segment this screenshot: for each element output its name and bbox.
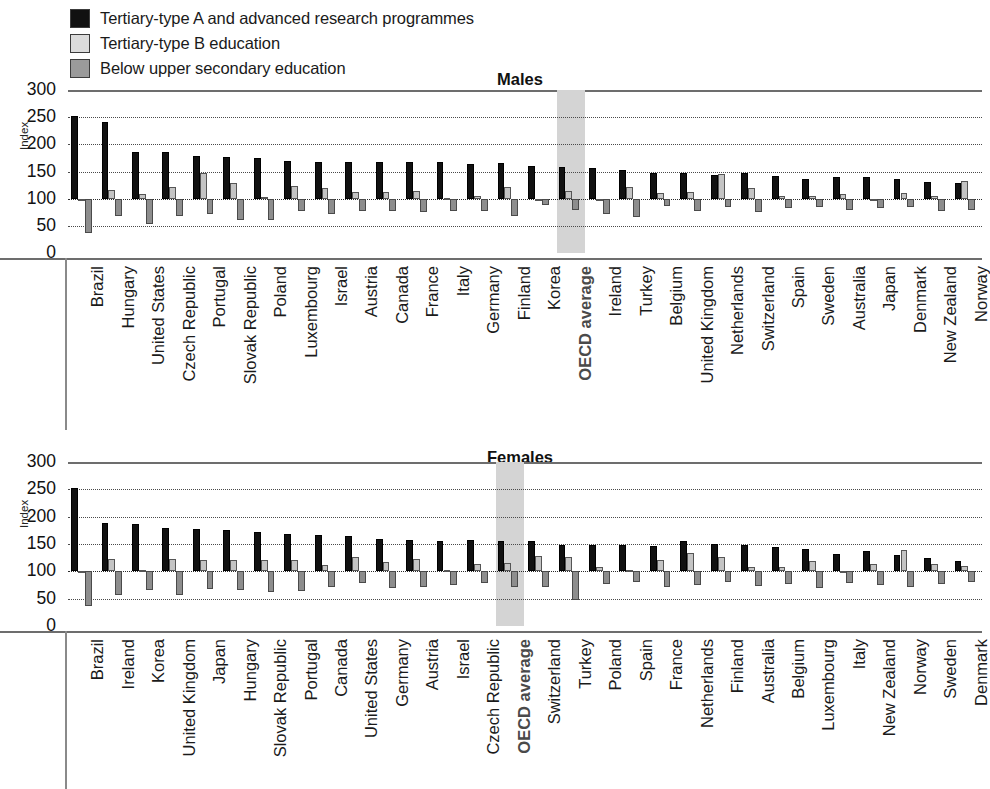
- category-label-switzerland: Switzerland: [760, 266, 777, 351]
- bar-below-upper-secondary: [176, 199, 183, 216]
- y-tick-females-150: 150: [0, 535, 62, 553]
- bar-below-upper-secondary: [846, 571, 853, 582]
- legend-label-below-upper-secondary: Below upper secondary education: [100, 60, 345, 77]
- bar-below-upper-secondary: [481, 199, 488, 211]
- bar-below-upper-secondary: [572, 571, 579, 600]
- bar-tertiary-b: [383, 192, 390, 199]
- category-label-canada: Canada: [333, 639, 350, 697]
- bar-tertiary-b: [108, 559, 115, 572]
- category-label-oecd-average: OECD average: [577, 266, 594, 381]
- category-label-italy: Italy: [455, 266, 472, 296]
- bar-tertiary-a: [193, 529, 200, 571]
- bar-tertiary-b: [901, 550, 908, 571]
- bar-tertiary-b: [413, 559, 420, 571]
- bar-tertiary-b: [870, 199, 877, 201]
- bar-tertiary-b: [657, 193, 664, 199]
- category-label-sweden: Sweden: [820, 266, 837, 326]
- bar-tertiary-a: [802, 179, 809, 199]
- bar-tertiary-b: [139, 194, 146, 198]
- category-label-poland: Poland: [607, 639, 624, 690]
- y-tick-males-300: 300: [0, 81, 62, 99]
- bar-tertiary-b: [535, 199, 542, 201]
- category-label-oecd-average: OECD average: [516, 639, 533, 754]
- bar-below-upper-secondary: [785, 199, 792, 208]
- bar-tertiary-a: [528, 541, 535, 571]
- bar-tertiary-b: [504, 563, 511, 572]
- category-label-united-kingdom: United Kingdom: [699, 266, 716, 383]
- category-label-italy: Italy: [851, 639, 868, 669]
- category-label-belgium: Belgium: [668, 266, 685, 326]
- bar-tertiary-a: [132, 152, 139, 199]
- legend-swatch-dark-gray-icon: [70, 59, 90, 78]
- bar-tertiary-b: [931, 564, 938, 571]
- bar-tertiary-a: [467, 540, 474, 571]
- bar-tertiary-a: [102, 523, 109, 571]
- legend-item-tertiary-a: Tertiary-type A and advanced research pr…: [70, 6, 590, 31]
- bar-tertiary-b: [687, 553, 694, 572]
- bar-tertiary-b: [809, 196, 816, 198]
- category-label-luxembourg: Luxembourg: [303, 266, 320, 358]
- bar-below-upper-secondary: [268, 571, 275, 591]
- y-tick-males-50: 50: [0, 217, 62, 235]
- bar-tertiary-a: [162, 152, 169, 199]
- bar-below-upper-secondary: [877, 571, 884, 585]
- category-label-norway: Norway: [973, 266, 990, 322]
- bar-tertiary-b: [504, 187, 511, 199]
- bar-tertiary-b: [565, 191, 572, 199]
- bar-tertiary-a: [955, 183, 962, 199]
- category-label-poland: Poland: [272, 266, 289, 317]
- category-label-netherlands: Netherlands: [699, 639, 716, 728]
- bar-tertiary-b: [322, 565, 329, 571]
- bar-tertiary-a: [589, 545, 596, 571]
- bar-below-upper-secondary: [664, 199, 671, 206]
- category-label-israel: Israel: [455, 639, 472, 679]
- bar-tertiary-b: [718, 557, 725, 571]
- bar-tertiary-b: [565, 557, 572, 572]
- bar-tertiary-a: [315, 535, 322, 571]
- bar-tertiary-b: [261, 560, 268, 571]
- bar-below-upper-secondary: [603, 571, 610, 584]
- bar-tertiary-b: [474, 196, 481, 199]
- bar-below-upper-secondary: [389, 571, 396, 587]
- y-tick-females-200: 200: [0, 508, 62, 526]
- bar-tertiary-b: [779, 567, 786, 571]
- bar-tertiary-a: [680, 173, 687, 199]
- bar-below-upper-secondary: [207, 571, 214, 588]
- category-band-top-rule: [0, 631, 982, 633]
- bar-tertiary-a: [132, 524, 139, 571]
- legend-swatch-light-gray-icon: [70, 34, 90, 53]
- legend-label-tertiary-a: Tertiary-type A and advanced research pr…: [100, 10, 474, 27]
- bar-below-upper-secondary: [664, 571, 671, 586]
- category-label-new-zealand: New Zealand: [942, 266, 959, 363]
- bar-tertiary-b: [78, 571, 85, 573]
- bar-tertiary-a: [406, 162, 413, 198]
- category-labels-males: BrazilHungaryUnited StatesCzech Republic…: [0, 258, 982, 430]
- bar-tertiary-b: [870, 564, 877, 571]
- bar-below-upper-secondary: [785, 571, 792, 584]
- bar-tertiary-a: [741, 545, 748, 571]
- category-label-switzerland: Switzerland: [546, 639, 563, 724]
- bar-tertiary-a: [772, 176, 779, 198]
- category-label-spain: Spain: [638, 639, 655, 681]
- bar-below-upper-secondary: [328, 199, 335, 214]
- category-label-japan: Japan: [211, 639, 228, 684]
- bar-tertiary-b: [626, 187, 633, 198]
- plot-area-females: [68, 462, 982, 626]
- bar-tertiary-a: [619, 170, 626, 199]
- category-label-slovak-republic: Slovak Republic: [272, 639, 289, 757]
- bar-tertiary-a: [193, 156, 200, 199]
- bar-tertiary-a: [650, 546, 657, 572]
- bar-tertiary-b: [931, 196, 938, 199]
- category-label-united-states: United States: [150, 266, 167, 365]
- y-tick-males-100: 100: [0, 190, 62, 208]
- category-label-turkey: Turkey: [638, 266, 655, 316]
- bar-tertiary-b: [230, 560, 237, 571]
- y-tick-males-250: 250: [0, 108, 62, 126]
- bar-tertiary-a: [406, 540, 413, 572]
- bar-tertiary-a: [254, 532, 261, 571]
- bar-below-upper-secondary: [877, 199, 884, 209]
- bar-below-upper-secondary: [816, 571, 823, 587]
- bar-tertiary-a: [711, 175, 718, 199]
- bar-below-upper-secondary: [176, 571, 183, 595]
- y-tick-females-250: 250: [0, 480, 62, 498]
